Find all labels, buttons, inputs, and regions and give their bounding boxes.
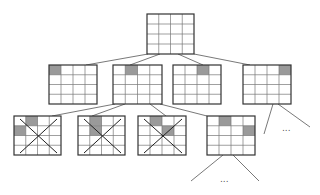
grid-node-root	[147, 14, 194, 54]
shaded-cell	[197, 65, 209, 75]
shaded-cell	[243, 126, 255, 136]
ellipsis-more-l1-d: ...	[282, 123, 291, 133]
shaded-cell	[26, 116, 38, 126]
tree-edge	[191, 155, 223, 181]
tree-edge	[233, 155, 259, 181]
tree-edge	[264, 104, 273, 134]
grid-node-l1-c	[173, 65, 221, 104]
tree-edge	[178, 54, 203, 65]
grid-node-l1-d	[243, 65, 291, 104]
tree-edge	[150, 104, 166, 116]
shaded-cell	[14, 126, 26, 136]
shaded-cell	[125, 65, 137, 75]
shaded-cell	[219, 116, 231, 126]
tree-edge	[92, 104, 125, 116]
grid-node-l1-a	[49, 65, 97, 104]
tree-edge	[130, 54, 160, 65]
grid-node-l2-d	[207, 116, 255, 155]
search-tree-diagram: ......	[0, 0, 320, 195]
shaded-cell	[150, 116, 162, 126]
grid-node-l2-b	[78, 116, 125, 155]
grid-node-l2-a	[14, 116, 61, 155]
shaded-cell	[90, 116, 102, 126]
shaded-cell	[279, 65, 291, 75]
tree-edge	[194, 54, 250, 65]
grid-node-l1-b	[113, 65, 162, 104]
grid-node-l2-c	[138, 116, 186, 155]
shaded-cell	[49, 65, 61, 75]
tree-edge	[86, 54, 148, 65]
tree-edge	[160, 104, 207, 116]
ellipsis-more-l2-d: ...	[220, 174, 229, 184]
tree-nodes	[14, 14, 291, 155]
tree-edge	[52, 104, 115, 116]
